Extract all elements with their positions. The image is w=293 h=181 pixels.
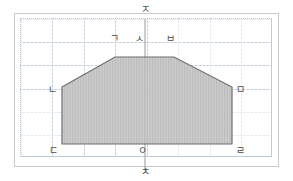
label-vertex-siot: ㅅ — [135, 34, 144, 44]
figure-canvas: ㅈ ㄱ ㅅ ㅂ ㄴ ㅁ ㄷ ㅇ ㄹ ㅊ — [0, 0, 293, 181]
label-vertex-mieum: ㅁ — [236, 85, 245, 95]
label-vertex-nieun: ㄴ — [48, 85, 57, 95]
label-top-axis: ㅈ — [141, 5, 150, 15]
label-vertex-bieup: ㅂ — [166, 34, 175, 44]
label-vertex-giyeok: ㄱ — [110, 34, 119, 44]
label-vertex-rieul: ㄹ — [236, 146, 245, 156]
shaded-hexagon — [62, 57, 232, 144]
label-origin: ㅇ — [138, 146, 147, 156]
label-vertex-digeut: ㄷ — [49, 146, 58, 156]
label-bottom-axis: ㅊ — [141, 167, 150, 177]
